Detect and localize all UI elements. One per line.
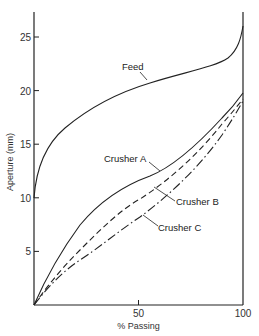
y-tick-label-10: 10 [20, 193, 32, 204]
y-axis-label: Aperture (mm) [5, 133, 15, 191]
chart: 5 10 15 20 25 50 100 % Passing Aperture … [0, 0, 259, 336]
crusher-c-label: Crusher C [158, 222, 201, 233]
crusher-a-leader [149, 162, 160, 171]
y-tick-label-15: 15 [20, 139, 32, 150]
y-tick-label-5: 5 [25, 246, 31, 257]
x-tick-label-50: 50 [133, 308, 145, 319]
axes: 5 10 15 20 25 50 100 % Passing Aperture … [5, 12, 252, 331]
crusher-a-label: Crusher A [104, 153, 147, 164]
feed-leader [140, 72, 147, 80]
y-tick-label-25: 25 [20, 32, 32, 43]
feed-label: Feed [122, 61, 144, 72]
y-ticks [34, 37, 39, 251]
feed-curve [34, 26, 243, 198]
y-tick-label-20: 20 [20, 86, 32, 97]
crusher-b-label: Crusher B [176, 196, 219, 207]
x-tick-label-100: 100 [235, 308, 252, 319]
crusher-c-leader [143, 215, 158, 226]
x-axis-label: % Passing [117, 321, 160, 331]
crusher-b-leader [154, 187, 175, 201]
